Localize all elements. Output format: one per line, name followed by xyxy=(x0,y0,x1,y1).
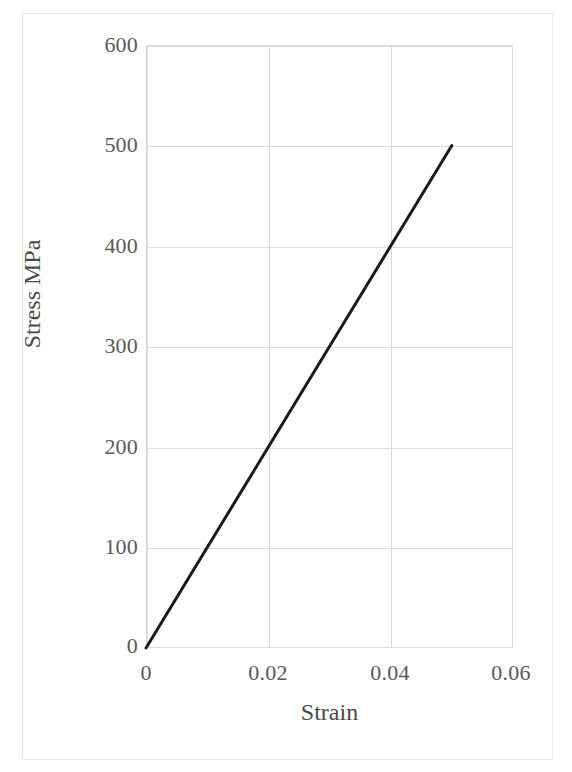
gridline-vertical xyxy=(391,46,392,647)
stress-strain-chart: 600 500 400 300 200 100 0 0 0.02 0.04 0.… xyxy=(0,0,572,772)
plot-area xyxy=(146,45,513,648)
y-tick-label: 0 xyxy=(60,635,138,657)
x-tick-label: 0.04 xyxy=(350,662,430,684)
x-axis-title: Strain xyxy=(146,700,513,724)
y-tick-label: 600 xyxy=(60,34,138,56)
x-tick-label: 0.02 xyxy=(228,662,308,684)
gridline-horizontal xyxy=(147,146,512,147)
x-tick-label: 0.06 xyxy=(471,662,551,684)
gridline-horizontal xyxy=(147,548,512,549)
gridline-vertical xyxy=(512,46,513,647)
gridline-horizontal xyxy=(147,647,512,648)
y-tick-label: 500 xyxy=(60,134,138,156)
gridline-vertical xyxy=(147,46,148,647)
x-tick-label: 0 xyxy=(106,662,186,684)
y-axis-title: Stress MPa xyxy=(20,214,44,374)
gridline-vertical xyxy=(269,46,270,647)
y-tick-label: 400 xyxy=(60,235,138,257)
y-tick-label: 200 xyxy=(60,436,138,458)
y-tick-label: 300 xyxy=(60,335,138,357)
gridline-horizontal xyxy=(147,347,512,348)
gridline-horizontal xyxy=(147,46,512,47)
gridline-horizontal xyxy=(147,247,512,248)
y-tick-label: 100 xyxy=(60,536,138,558)
gridline-horizontal xyxy=(147,448,512,449)
